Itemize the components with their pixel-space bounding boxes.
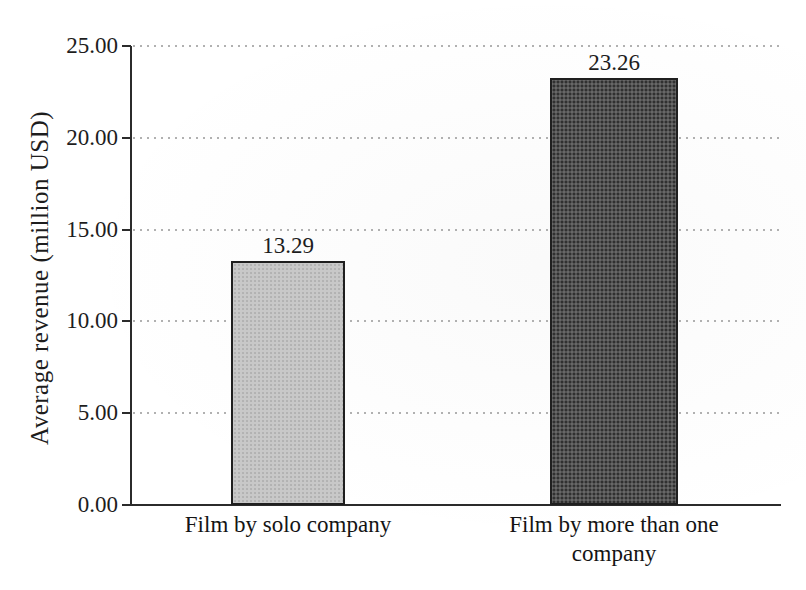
bar-value-label: 23.26 — [554, 50, 674, 76]
y-tick-label: 15.00 — [38, 217, 118, 243]
gridline — [133, 229, 781, 231]
y-tick-label: 25.00 — [38, 33, 118, 59]
gridline — [133, 137, 781, 139]
bar-multi-company — [550, 78, 678, 505]
x-axis-line — [122, 504, 781, 506]
x-category-label: Film by more than one company — [486, 510, 742, 568]
chart-container: Average revenue (million USD) 0.005.0010… — [0, 0, 806, 590]
bar-value-label: 13.29 — [228, 233, 348, 259]
gridline — [133, 45, 781, 47]
x-category-label: Film by solo company — [160, 510, 416, 539]
y-axis-title: Average revenue (million USD) — [26, 111, 54, 445]
bar-solo-company — [231, 261, 345, 505]
y-tick-label: 10.00 — [38, 308, 118, 334]
y-tick-label: 5.00 — [38, 400, 118, 426]
y-axis-line — [130, 46, 132, 506]
y-tick-label: 0.00 — [38, 492, 118, 518]
y-tick-label: 20.00 — [38, 125, 118, 151]
